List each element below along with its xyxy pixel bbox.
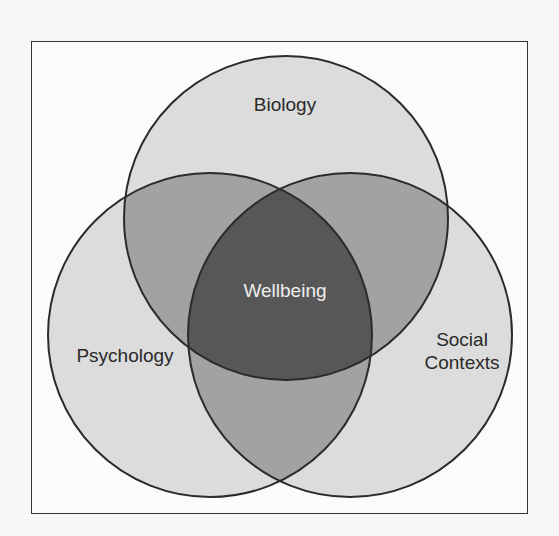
wellbeing-label: Wellbeing <box>225 279 345 302</box>
social-contexts-label: Social Contexts <box>412 328 512 374</box>
psychology-label: Psychology <box>60 344 190 367</box>
venn-diagram <box>0 0 559 536</box>
biology-label: Biology <box>230 93 340 116</box>
